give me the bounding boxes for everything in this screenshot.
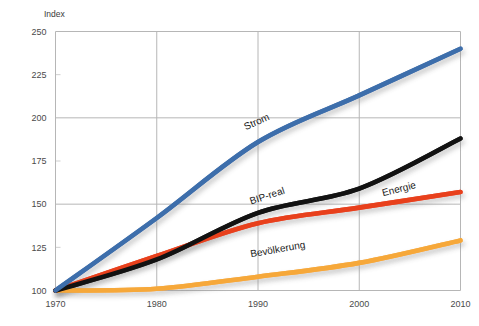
y-tick-label-150: 150 — [31, 199, 46, 209]
y-tick-label-225: 225 — [31, 70, 46, 80]
chart-container: 100125150175200225250 197019801990200020… — [0, 0, 479, 326]
x-tick-label-2000: 2000 — [349, 299, 369, 309]
x-tick-label-1970: 1970 — [45, 299, 65, 309]
y-tick-label-250: 250 — [31, 27, 46, 37]
x-tick-label-1990: 1990 — [248, 299, 268, 309]
y-tick-label-100: 100 — [31, 286, 46, 296]
y-axis-title: Index — [44, 9, 66, 19]
x-tick-label-2010: 2010 — [450, 299, 470, 309]
y-tick-label-125: 125 — [31, 243, 46, 253]
y-tick-label-200: 200 — [31, 113, 46, 123]
y-tick-label-175: 175 — [31, 156, 46, 166]
x-tick-label-1980: 1980 — [147, 299, 167, 309]
index-line-chart: 100125150175200225250 197019801990200020… — [0, 0, 479, 326]
